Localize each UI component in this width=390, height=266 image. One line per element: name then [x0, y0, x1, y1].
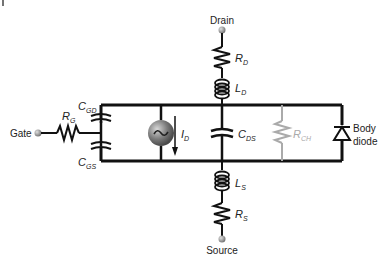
cds-branch: [211, 105, 233, 161]
circuit-diagram: Drain Source Gate RD LD RG CGD CGS ID CD…: [0, 0, 390, 266]
rs-resistor-icon: [214, 203, 230, 224]
ls-inductor-icon: [215, 172, 229, 191]
source-terminal[interactable]: [219, 236, 226, 243]
ld-label: LD: [235, 82, 246, 96]
body-diode-label-line2: diode: [353, 136, 378, 147]
source-branch: [214, 161, 230, 243]
drain-label: Drain: [210, 15, 234, 26]
body-diode-label-line1: Body: [353, 123, 376, 134]
cgs-label: CGS: [78, 156, 96, 170]
rd-label: RD: [235, 52, 248, 66]
source-label: Source: [206, 245, 238, 256]
body-diode: [334, 127, 350, 140]
rs-label: RS: [235, 208, 248, 222]
ls-label: LS: [235, 177, 246, 191]
rch-resistor-icon: [275, 121, 289, 143]
id-label: ID: [181, 128, 189, 142]
drain-terminal[interactable]: [219, 27, 226, 34]
ld-inductor-icon: [215, 80, 229, 99]
cds-capacitor-icon: [211, 129, 233, 131]
rch-branch: [275, 105, 289, 161]
current-source-branch: [148, 105, 178, 161]
gate-label: Gate: [10, 128, 32, 139]
drain-branch: [214, 27, 230, 106]
cgd-label: CGD: [78, 100, 96, 114]
rg-label: RG: [62, 110, 76, 124]
cds-label: CDS: [238, 128, 256, 142]
rd-resistor-icon: [214, 47, 230, 68]
rch-label: RCH: [293, 128, 312, 142]
rg-resistor-icon: [57, 126, 79, 140]
gate-terminal[interactable]: [35, 130, 42, 137]
